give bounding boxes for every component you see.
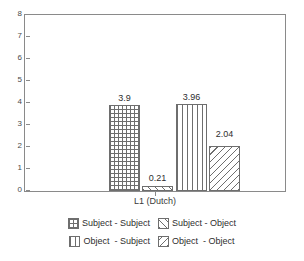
- legend-label: Subject - Subject: [82, 218, 150, 229]
- legend-item-subject-subject[interactable]: Subject - Subject: [68, 218, 150, 229]
- legend-swatch-forward-diagonal-icon: [158, 218, 169, 229]
- chart-legend: Subject - Subject Subject - Object Objec…: [0, 214, 304, 250]
- bar-subject-subject[interactable]: [109, 105, 140, 191]
- legend-row: Subject - Subject Subject - Object: [0, 214, 304, 232]
- y-axis: 8 7 6 5 4 3 2 1 0: [0, 14, 26, 192]
- bar-value-label: 3.9: [104, 93, 145, 103]
- legend-label: Subject - Object: [172, 218, 236, 229]
- bar-value-label: 3.96: [171, 92, 212, 102]
- bar-subject-object[interactable]: [142, 186, 173, 191]
- legend-label: Object - Object: [172, 236, 235, 247]
- legend-swatch-vertical-lines-icon: [69, 236, 80, 247]
- legend-swatch-cross-hatch-icon: [68, 218, 79, 229]
- bar-object-subject[interactable]: [176, 104, 207, 191]
- legend-label: Object - Subject: [83, 236, 150, 247]
- legend-item-object-object[interactable]: Object - Object: [158, 236, 235, 247]
- bar-object-object[interactable]: [209, 146, 240, 191]
- x-axis-label: L1 (Dutch): [24, 196, 286, 206]
- legend-item-subject-object[interactable]: Subject - Object: [158, 218, 236, 229]
- legend-row: Object - Subject Object - Object: [0, 232, 304, 250]
- bars-layer: 3.9 0.21 3.96 2.04: [25, 15, 285, 191]
- bar-value-label: 0.21: [137, 173, 178, 183]
- legend-swatch-backward-diagonal-icon: [158, 236, 169, 247]
- chart-container: 8 7 6 5 4 3 2 1 0 3.9 0.21 3.96 2.04 L1 …: [0, 0, 304, 261]
- bar-value-label: 2.04: [204, 129, 245, 139]
- legend-item-object-subject[interactable]: Object - Subject: [69, 236, 150, 247]
